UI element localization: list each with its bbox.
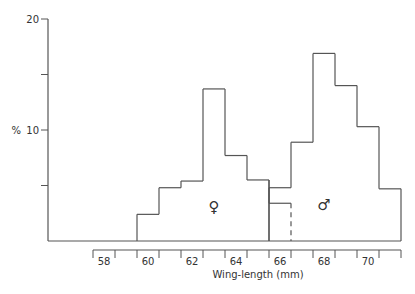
y-axis: 2010: [26, 14, 48, 242]
x-tick-label: 60: [142, 256, 155, 267]
x-tick-label: 58: [98, 256, 111, 267]
y-tick-label: 20: [26, 14, 39, 25]
x-axis: 58606264666870: [48, 241, 401, 267]
x-tick-label: 62: [186, 256, 199, 267]
x-tick-label: 64: [230, 256, 243, 267]
y-tick-label: 10: [26, 125, 39, 136]
female-symbol-icon: ♀: [209, 198, 220, 216]
x-tick-label: 68: [318, 256, 331, 267]
wing-length-histogram: 2010 58606264666870 ♀♂ % Wing-length (mm…: [0, 0, 415, 294]
y-axis-label: %: [11, 125, 21, 136]
x-tick-label: 70: [362, 256, 375, 267]
histogram-bars: ♀♂: [137, 53, 401, 241]
x-axis-label: Wing-length (mm): [212, 269, 303, 280]
x-tick-label: 66: [274, 256, 287, 267]
male-symbol-icon: ♂: [317, 196, 330, 214]
